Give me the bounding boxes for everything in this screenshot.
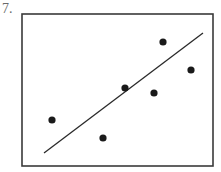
scatter-plot [0,0,221,172]
data-point-2 [99,134,106,141]
data-points [48,38,194,141]
data-point-5 [159,38,166,45]
data-point-3 [121,84,128,91]
plot-frame [22,14,213,166]
trend-line [44,33,203,153]
data-point-6 [187,66,194,73]
data-point-1 [48,116,55,123]
data-point-4 [150,89,157,96]
